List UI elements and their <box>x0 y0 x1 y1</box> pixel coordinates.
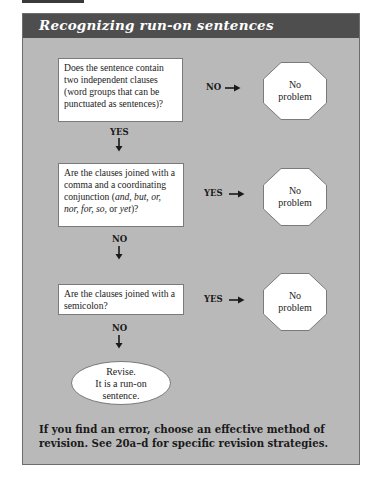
outcome-octagon-3: No problem <box>263 273 327 331</box>
outcome-line-1: No <box>263 79 327 91</box>
down-label-1: YES <box>110 127 129 137</box>
outcome-octagon-1: No problem <box>263 62 327 120</box>
down-arrow-icon <box>114 138 124 152</box>
outcome-line-1: No <box>263 185 327 197</box>
side-label-2: YES <box>204 188 223 198</box>
right-arrow-icon <box>225 84 241 92</box>
outcome-line-2: problem <box>263 197 327 209</box>
question-text-3: Are the clauses joined with a semicolon? <box>64 288 175 311</box>
down-label-3: NO <box>112 323 127 333</box>
right-arrow-icon <box>229 190 245 198</box>
revise-line-2: It is a run-on <box>71 378 171 390</box>
footer-note: If you find an error, choose an effectiv… <box>39 422 351 450</box>
question-box-1: Does the sentence contain two independen… <box>58 58 183 122</box>
outcome-text-1: No problem <box>263 79 327 103</box>
revise-ellipse: Revise. It is a run-on sentence. <box>71 361 171 405</box>
outcome-line-1: No <box>263 290 327 302</box>
question-box-3: Are the clauses joined with a semicolon? <box>58 284 184 315</box>
question-text-2d: yet <box>120 203 131 214</box>
side-label-1: NO <box>206 82 221 92</box>
flowchart-card: Recognizing run-on sentences Does the se… <box>22 13 360 465</box>
down-label-2: NO <box>112 234 127 244</box>
question-text-1: Does the sentence contain two independen… <box>64 62 164 109</box>
outcome-text-2: No problem <box>263 185 327 209</box>
card-title: Recognizing run-on sentences <box>39 17 274 33</box>
question-text-2c: or <box>107 203 120 214</box>
question-text-2e: )? <box>131 203 138 214</box>
revise-text: Revise. It is a run-on sentence. <box>71 366 171 402</box>
right-arrow-icon <box>229 296 245 304</box>
outcome-line-2: problem <box>263 91 327 103</box>
outcome-octagon-2: No problem <box>263 168 327 226</box>
outcome-line-2: problem <box>263 302 327 314</box>
outcome-text-3: No problem <box>263 290 327 314</box>
top-tab-mark <box>22 0 84 3</box>
side-label-3: YES <box>204 294 223 304</box>
revise-line-1: Revise. <box>71 366 171 378</box>
down-arrow-icon <box>114 335 124 349</box>
revise-line-3: sentence. <box>71 390 171 402</box>
down-arrow-icon <box>114 246 124 260</box>
card-header: Recognizing run-on sentences <box>23 14 359 38</box>
question-box-2: Are the clauses joined with a comma and … <box>58 163 184 227</box>
